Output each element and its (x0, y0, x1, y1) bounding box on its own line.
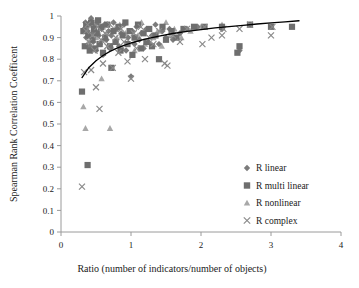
plot-canvas: 00.10.20.30.40.50.60.70.80.91 01234 Rati… (0, 0, 359, 288)
point-r-complex (219, 32, 225, 38)
point-r-nonlinear (98, 75, 104, 81)
y-tick-label: 0.7 (43, 76, 55, 86)
x-tick-label: 1 (129, 240, 134, 250)
point-r-complex (199, 41, 205, 47)
point-r-multi-linear (85, 162, 91, 168)
point-r-multi-linear (79, 89, 85, 95)
point-r-multi-linear (120, 32, 126, 38)
y-tick-label: 0.8 (43, 54, 55, 64)
legend-label: R linear (256, 163, 287, 173)
legend-marker-cross (244, 217, 250, 223)
point-r-complex (164, 63, 170, 69)
point-r-nonlinear (82, 125, 88, 131)
y-tick-label: 0.5 (43, 119, 55, 129)
legend-label: R nonlinear (256, 198, 301, 208)
point-r-multi-linear (289, 24, 295, 30)
legend-item-r-linear[interactable]: R linear (244, 163, 287, 173)
y-tick-label: 0.1 (43, 206, 54, 216)
y-tick-label: 0.4 (43, 141, 55, 151)
point-r-multi-linear (141, 30, 147, 36)
y-tick-label: 1 (50, 11, 55, 21)
y-tick-label: 0 (50, 227, 55, 237)
x-axis-title: Ratio (number of indicators/number of ob… (77, 263, 266, 275)
x-tick-label: 2 (199, 240, 204, 250)
point-r-nonlinear (107, 125, 113, 131)
x-tick-label: 0 (59, 240, 64, 250)
series-r-multi-linear (79, 17, 295, 168)
point-r-multi-linear (163, 37, 169, 43)
y-tick-label: 0.6 (43, 98, 55, 108)
point-r-nonlinear (80, 104, 86, 110)
point-r-multi-linear (95, 17, 101, 23)
point-r-multi-linear (236, 43, 242, 49)
chart-legend: R linearR multi linearR nonlinearR compl… (244, 163, 310, 226)
point-r-linear (152, 21, 158, 27)
y-axis-ticks: 00.10.20.30.40.50.60.70.80.91 (43, 11, 61, 237)
point-r-multi-linear (146, 26, 152, 32)
point-r-multi-linear (159, 24, 165, 30)
point-r-multi-linear (98, 24, 104, 30)
point-r-multi-linear (156, 56, 162, 62)
legend-marker-diamond (244, 165, 250, 171)
legend-item-r-complex[interactable]: R complex (244, 216, 298, 226)
point-r-complex (79, 184, 85, 190)
point-r-multi-linear (88, 19, 94, 25)
x-tick-label: 4 (339, 240, 344, 250)
point-r-complex (142, 56, 148, 62)
point-r-complex (93, 84, 99, 90)
legend-marker-triangle (244, 200, 250, 206)
y-axis-title: Spearman Rank Correlation Coefficent (8, 46, 19, 202)
point-r-multi-linear (122, 19, 128, 25)
point-r-multi-linear (129, 52, 135, 58)
y-tick-label: 0.3 (43, 162, 55, 172)
legend-label: R complex (256, 216, 298, 226)
x-tick-label: 3 (269, 240, 274, 250)
point-r-complex (97, 106, 103, 112)
point-r-complex (237, 26, 243, 32)
legend-label: R multi linear (256, 181, 310, 191)
legend-marker-square (244, 182, 250, 188)
legend-item-r-nonlinear[interactable]: R nonlinear (244, 198, 302, 208)
y-tick-label: 0.2 (43, 184, 54, 194)
y-tick-label: 0.9 (43, 33, 55, 43)
legend-item-r-multi-linear[interactable]: R multi linear (244, 181, 310, 191)
point-r-multi-linear (234, 50, 240, 56)
x-axis-ticks: 01234 (59, 232, 344, 250)
series-r-complex (79, 22, 275, 190)
point-r-multi-linear (173, 35, 179, 41)
point-r-complex (209, 35, 215, 41)
point-r-complex (268, 32, 274, 38)
scatter-plot-figure: 00.10.20.30.40.50.60.70.80.91 01234 Rati… (0, 0, 359, 288)
point-r-complex (125, 58, 131, 64)
point-r-complex (100, 61, 106, 67)
point-r-multi-linear (191, 24, 197, 30)
